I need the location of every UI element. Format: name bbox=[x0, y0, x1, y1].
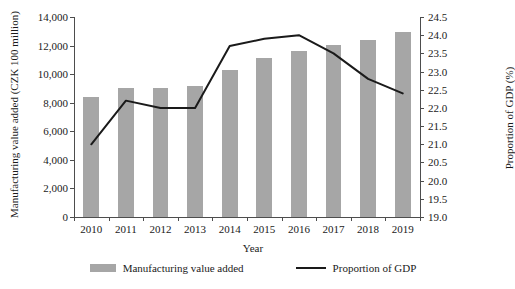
y-axis-left-tick-label: 4,000 bbox=[8, 154, 68, 166]
x-axis-tick bbox=[143, 217, 144, 221]
y-axis-right-tick-label: 22.0 bbox=[428, 102, 447, 114]
y-axis-right-tick-label: 24.5 bbox=[428, 11, 447, 23]
plot-area: 02,0004,0006,0008,00010,00012,00014,000 … bbox=[74, 17, 420, 217]
y-axis-right-tick-label: 23.0 bbox=[428, 66, 447, 78]
y-axis-right-tick-label: 19.0 bbox=[428, 211, 447, 223]
y-axis-right-tick-label: 19.5 bbox=[428, 193, 447, 205]
y-axis-left-tick-label: 10,000 bbox=[8, 68, 68, 80]
x-axis-tick-label: 2018 bbox=[357, 223, 379, 235]
y-axis-right-tick-label: 20.5 bbox=[428, 156, 447, 168]
x-axis-tick-label: 2012 bbox=[150, 223, 172, 235]
x-axis-tick-label: 2017 bbox=[323, 223, 345, 235]
y-axis-right-tick bbox=[420, 90, 424, 91]
x-axis-tick-label: 2014 bbox=[219, 223, 241, 235]
legend-label-proportion-of-gdp: Proportion of GDP bbox=[333, 262, 417, 274]
y-axis-right-tick bbox=[420, 108, 424, 109]
y-axis-right-tick bbox=[420, 53, 424, 54]
y-axis-right-tick bbox=[420, 72, 424, 73]
y-axis-right-tick-label: 20.0 bbox=[428, 175, 447, 187]
x-axis-tick-label: 2013 bbox=[184, 223, 206, 235]
legend-item-manufacturing-value-added: Manufacturing value added bbox=[90, 262, 244, 274]
y-axis-left-tick-label: 0 bbox=[8, 211, 68, 223]
x-axis-tick bbox=[351, 217, 352, 221]
x-axis-tick-label: 2016 bbox=[288, 223, 310, 235]
x-axis-tick bbox=[420, 217, 421, 221]
x-axis-tick bbox=[316, 217, 317, 221]
y-axis-right-tick bbox=[420, 181, 424, 182]
y-axis-right-tick bbox=[420, 199, 424, 200]
y-axis-right-title: Proportion of GDP (%) bbox=[503, 18, 515, 218]
y-axis-right-tick-label: 22.5 bbox=[428, 84, 447, 96]
y-axis-left-tick-label: 12,000 bbox=[8, 40, 68, 52]
y-axis-left-tick-label: 2,000 bbox=[8, 182, 68, 194]
x-axis-tick bbox=[74, 217, 75, 221]
y-axis-left-tick-label: 8,000 bbox=[8, 97, 68, 109]
y-axis-right-line bbox=[420, 17, 421, 217]
x-axis-tick-label: 2010 bbox=[80, 223, 102, 235]
x-axis-tick bbox=[247, 217, 248, 221]
y-axis-right-tick-label: 24.0 bbox=[428, 29, 447, 41]
y-axis-right-tick bbox=[420, 126, 424, 127]
y-axis-right-tick-label: 23.5 bbox=[428, 47, 447, 59]
line-series-proportion-of-gdp bbox=[74, 17, 420, 217]
y-axis-right-tick-label: 21.0 bbox=[428, 138, 447, 150]
y-axis-right-tick bbox=[420, 17, 424, 18]
legend-line-swatch-icon bbox=[296, 267, 326, 269]
x-axis-tick bbox=[385, 217, 386, 221]
x-axis-tick bbox=[178, 217, 179, 221]
x-axis-tick bbox=[282, 217, 283, 221]
chart-legend: Manufacturing value added Proportion of … bbox=[0, 262, 506, 274]
y-axis-right-tick bbox=[420, 144, 424, 145]
x-axis-tick bbox=[109, 217, 110, 221]
x-axis-tick bbox=[212, 217, 213, 221]
y-axis-right-tick bbox=[420, 35, 424, 36]
x-axis-tick-label: 2011 bbox=[115, 223, 137, 235]
legend-bar-swatch-icon bbox=[90, 264, 116, 272]
y-axis-right-tick bbox=[420, 162, 424, 163]
y-axis-right-tick-label: 21.5 bbox=[428, 120, 447, 132]
y-axis-left-tick-label: 6,000 bbox=[8, 125, 68, 137]
x-axis-tick-label: 2019 bbox=[392, 223, 414, 235]
x-axis-title: Year bbox=[0, 242, 506, 254]
x-axis-tick-label: 2015 bbox=[253, 223, 275, 235]
legend-label-manufacturing-value-added: Manufacturing value added bbox=[123, 262, 244, 274]
y-axis-left-tick-label: 14,000 bbox=[8, 11, 68, 23]
legend-item-proportion-of-gdp: Proportion of GDP bbox=[296, 262, 417, 274]
